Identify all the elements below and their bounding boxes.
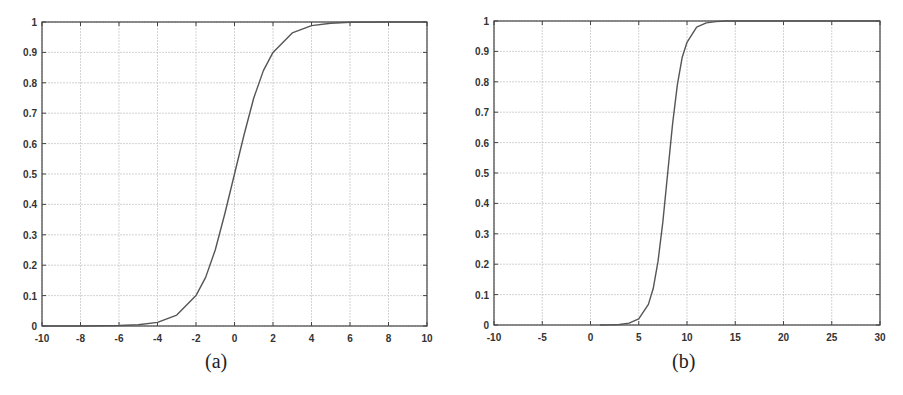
- y-tick-label: 0.9: [23, 47, 37, 58]
- x-tick-label: 25: [826, 332, 838, 343]
- x-tick-label: 2: [270, 333, 276, 344]
- y-tick-label: 0.8: [475, 77, 489, 88]
- x-tick-label: -10: [35, 333, 50, 344]
- y-tick-label: 0.1: [23, 291, 37, 302]
- y-tick-label: 0.3: [23, 230, 37, 241]
- y-tick-label: 0.5: [23, 169, 37, 180]
- chart-b-caption: (b): [672, 350, 695, 373]
- x-tick-label: -10: [487, 332, 502, 343]
- x-tick-label: 0: [588, 332, 594, 343]
- y-tick-label: 0: [483, 320, 489, 331]
- y-tick-label: 0.7: [23, 108, 37, 119]
- x-tick-label: 15: [730, 332, 742, 343]
- x-tick-label: 6: [347, 333, 353, 344]
- x-tick-label: 20: [778, 332, 790, 343]
- y-tick-label: 0.1: [475, 290, 489, 301]
- y-tick-label: 0.5: [475, 168, 489, 179]
- y-tick-label: 0.2: [23, 260, 37, 271]
- y-tick-label: 0: [31, 321, 37, 332]
- chart-a-plot: -10-8-6-4-2024681000.10.20.30.40.50.60.7…: [0, 0, 450, 345]
- chart-b-plot: -10-505101520253000.10.20.30.40.50.60.70…: [450, 0, 903, 345]
- x-tick-label: -6: [115, 333, 124, 344]
- y-tick-label: 0.6: [23, 139, 37, 150]
- chart-a-caption: (a): [205, 350, 227, 373]
- x-tick-label: 30: [874, 332, 886, 343]
- x-tick-label: 4: [309, 333, 315, 344]
- x-tick-label: 0: [232, 333, 238, 344]
- y-tick-label: 1: [483, 16, 489, 27]
- x-tick-label: -2: [192, 333, 201, 344]
- y-tick-label: 0.8: [23, 78, 37, 89]
- y-tick-label: 0.4: [23, 199, 37, 210]
- x-tick-label: 10: [681, 332, 693, 343]
- y-tick-label: 0.9: [475, 46, 489, 57]
- y-tick-label: 0.6: [475, 138, 489, 149]
- chart-panel-a: -10-8-6-4-2024681000.10.20.30.40.50.60.7…: [0, 0, 450, 395]
- y-tick-label: 0.7: [475, 107, 489, 118]
- y-tick-label: 0.4: [475, 198, 489, 209]
- x-tick-label: 10: [421, 333, 433, 344]
- x-tick-label: -4: [153, 333, 162, 344]
- y-tick-label: 0.2: [475, 259, 489, 270]
- x-tick-label: 5: [636, 332, 642, 343]
- y-tick-label: 0.3: [475, 229, 489, 240]
- chart-panel-b: -10-505101520253000.10.20.30.40.50.60.70…: [450, 0, 903, 395]
- y-tick-label: 1: [31, 17, 37, 28]
- x-tick-label: 8: [386, 333, 392, 344]
- x-tick-label: -5: [538, 332, 547, 343]
- x-tick-label: -8: [76, 333, 85, 344]
